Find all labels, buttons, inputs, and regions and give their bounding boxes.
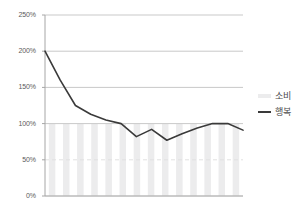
y-axis-label-200%: 200%: [0, 47, 42, 55]
y-axis-label-150%: 150%: [0, 83, 42, 91]
legend-item-sobi[interactable]: 소비: [258, 88, 304, 104]
y-axis-tick-labels: 0%50%100%150%200%250%: [0, 0, 42, 215]
y-axis-label-250%: 250%: [0, 11, 42, 19]
legend-swatch-line: [258, 111, 271, 113]
y-axis-label-50%: 50%: [0, 156, 42, 164]
y-axis-label-100%: 100%: [0, 120, 42, 128]
chart-legend: 소비 행복: [258, 88, 304, 120]
legend-label-sobi: 소비: [275, 91, 291, 101]
legend-label-haengbok: 행복: [275, 107, 291, 117]
legend-item-haengbok[interactable]: 행복: [258, 104, 304, 120]
legend-swatch-bar: [258, 94, 271, 98]
line-series-happiness: [45, 51, 243, 140]
chart-container: 0%50%100%150%200%250% 소비 행복: [0, 0, 304, 215]
y-axis-label-0%: 0%: [0, 192, 42, 200]
